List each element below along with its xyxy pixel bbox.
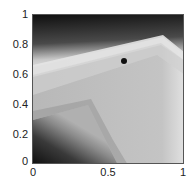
y-tick-label: 0.8: [0, 39, 28, 50]
y-tick-label: 0.6: [0, 69, 28, 80]
x-tick-label: 0: [30, 167, 36, 178]
x-tick-label: 0.5: [100, 167, 115, 178]
y-tick-label: 1: [0, 9, 28, 20]
data-point-marker: [121, 58, 127, 64]
heatmap-image: [33, 15, 184, 164]
heatmap-plot-area: [32, 14, 184, 164]
y-tick-label: 0.2: [0, 129, 28, 140]
x-tick-label: 1: [180, 167, 186, 178]
y-tick-label: 0.4: [0, 99, 28, 110]
y-tick-label: 0: [0, 156, 28, 167]
